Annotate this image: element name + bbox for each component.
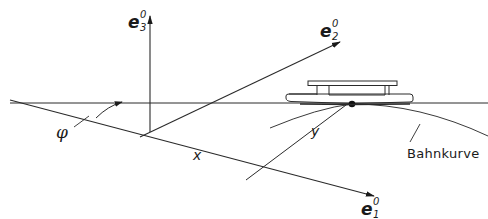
contact-wedge (300, 104, 410, 105)
e2-axis-line (140, 42, 340, 137)
phi-angle-arc (96, 102, 122, 118)
y-label: y (311, 124, 319, 138)
e2-symbol: e (320, 21, 332, 41)
e2-subscript: 2 (332, 32, 338, 42)
x-label: x (193, 148, 201, 162)
e3-axis-label: e03 (128, 14, 140, 31)
path-curve (270, 104, 488, 136)
path-curve-label: Bahnkurve (407, 147, 479, 160)
e2-superscript: 0 (332, 19, 338, 29)
e1-symbol: e (361, 199, 373, 219)
e1-axis-line (10, 100, 374, 196)
e3-superscript: 0 (140, 10, 146, 20)
e3-subscript: 3 (140, 23, 146, 33)
e2-axis-label: e02 (320, 23, 332, 40)
e1-superscript: 0 (373, 197, 379, 207)
e3-symbol: e (128, 12, 140, 32)
diagram-drawing (0, 0, 488, 219)
y-coordinate-line (246, 105, 346, 180)
diagram-canvas: e03 e02 e01 φ x y Bahnkurve (0, 0, 488, 219)
path-curve-leader-line (410, 124, 420, 142)
e1-axis-label: e01 (361, 201, 373, 218)
vehicle-shape (286, 81, 413, 104)
phi-label: φ (56, 124, 68, 141)
e1-subscript: 1 (373, 210, 379, 219)
